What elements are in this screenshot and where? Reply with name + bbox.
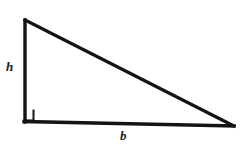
base-label: b	[120, 129, 127, 142]
hypotenuse-line	[25, 20, 234, 126]
right-triangle-figure: h b	[0, 0, 241, 144]
triangle-svg	[0, 0, 241, 144]
height-label: h	[6, 60, 13, 73]
base-leg-line	[24, 122, 234, 127]
